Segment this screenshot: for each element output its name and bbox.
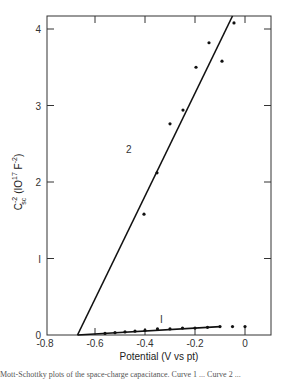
data-point — [143, 329, 146, 332]
x-tick-label: -0.4 — [136, 338, 154, 349]
x-tick-label: -0.6 — [86, 338, 104, 349]
y-tick-label: 4 — [35, 24, 41, 35]
data-point — [193, 327, 196, 330]
data-point — [103, 332, 106, 335]
data-point — [142, 213, 145, 216]
x-tick-label: 0 — [242, 338, 248, 349]
data-point — [243, 325, 246, 328]
x-axis-label: Potential (V vs pt) — [120, 351, 199, 362]
data-point — [168, 327, 171, 330]
data-point — [232, 21, 235, 24]
data-point — [231, 325, 234, 328]
y-tick-label: 2 — [35, 177, 41, 188]
y-axis-label: C-2sc(IO17 F-2) — [11, 154, 27, 211]
data-point — [181, 327, 184, 330]
data-point — [155, 171, 158, 174]
y-tick-label: I — [38, 254, 41, 265]
curve-label-2: 2 — [126, 144, 132, 155]
fit-line-2 — [78, 16, 233, 335]
plot-frame — [47, 16, 271, 335]
y-tick-label: 0 — [35, 330, 41, 341]
plot-border — [47, 16, 271, 335]
data-point — [194, 66, 197, 69]
data-point — [168, 122, 171, 125]
svg-text:C-2sc(IO17 F-2): C-2sc(IO17 F-2) — [11, 154, 27, 211]
curve-label-1: I — [160, 314, 163, 325]
fit-line-1 — [78, 327, 221, 335]
data-point — [113, 331, 116, 334]
x-tick-label: -0.2 — [186, 338, 204, 349]
data-point — [133, 330, 136, 333]
mott-schottky-chart: -0.8-0.6-0.4-0.200I234 2I Potential (V v… — [0, 0, 286, 379]
data-point — [181, 108, 184, 111]
data-point — [123, 330, 126, 333]
axis-ticks: -0.8-0.6-0.4-0.200I234 — [35, 16, 271, 349]
figure-caption: Mott-Schottky plots of the space-charge … — [0, 370, 286, 379]
y-tick-label: 3 — [35, 101, 41, 112]
data-point — [220, 60, 223, 63]
data-point — [218, 325, 221, 328]
data-point — [207, 41, 210, 44]
data-series: 2I — [78, 16, 247, 335]
data-point — [206, 326, 209, 329]
data-point — [156, 327, 159, 330]
